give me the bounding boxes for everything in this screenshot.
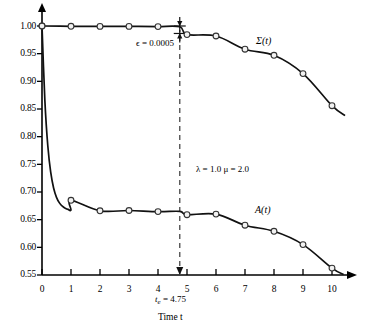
sigma-curve-label: Σ(t) bbox=[256, 35, 271, 46]
sigma-data-marker bbox=[300, 71, 306, 77]
x-tick-label: 4 bbox=[149, 284, 167, 294]
sigma-data-marker bbox=[97, 24, 103, 30]
a-data-marker bbox=[155, 209, 161, 215]
x-tick-label: 5 bbox=[178, 284, 196, 294]
y-tick-label: 0.90 bbox=[2, 76, 36, 86]
a-curve-label: A(t) bbox=[255, 204, 271, 215]
a-data-marker bbox=[126, 208, 132, 214]
figure-sigma-availability-plot: 1.00 0.95 0.90 0.85 0.80 0.75 0.70 0.65 … bbox=[0, 0, 372, 330]
sigma-data-marker bbox=[155, 24, 161, 30]
x-tick-label: 8 bbox=[265, 284, 283, 294]
sigma-data-marker bbox=[213, 33, 219, 39]
te-value-label: te = 4.75 bbox=[155, 294, 186, 306]
a-data-marker bbox=[329, 265, 335, 271]
x-tick-label: 3 bbox=[120, 284, 138, 294]
a-curve bbox=[42, 26, 344, 274]
y-tick-label: 0.60 bbox=[2, 242, 36, 252]
x-tick-label: 0 bbox=[33, 284, 51, 294]
y-tick-label: 0.85 bbox=[2, 103, 36, 113]
a-data-marker bbox=[271, 228, 277, 234]
a-data-marker bbox=[184, 212, 190, 218]
a-data-marker bbox=[97, 208, 103, 214]
sigma-data-marker bbox=[184, 32, 190, 38]
y-tick-label: 1.00 bbox=[2, 21, 36, 31]
x-tick-label: 2 bbox=[91, 284, 109, 294]
y-tick-label: 0.65 bbox=[2, 214, 36, 224]
y-tick-label: 0.70 bbox=[2, 186, 36, 196]
x-tick-label: 10 bbox=[323, 284, 341, 294]
chart-canvas bbox=[0, 0, 372, 330]
epsilon-annotation: ϵ = 0.0005 bbox=[136, 38, 174, 48]
sigma-curve bbox=[42, 26, 345, 116]
te-axis-pointer bbox=[176, 267, 183, 275]
y-tick-label: 0.95 bbox=[2, 48, 36, 58]
a-data-marker bbox=[300, 242, 306, 248]
a-data-marker bbox=[39, 23, 45, 29]
x-tick-label: 7 bbox=[236, 284, 254, 294]
a-data-marker bbox=[213, 211, 219, 217]
te-equals-value: = 4.75 bbox=[161, 294, 186, 304]
y-axis-arrow bbox=[38, 3, 46, 12]
sigma-data-marker bbox=[242, 46, 248, 52]
sigma-data-marker bbox=[126, 24, 132, 30]
a-data-marker bbox=[68, 197, 74, 203]
a-data-marker bbox=[242, 222, 248, 228]
sigma-data-marker bbox=[68, 23, 74, 29]
sigma-data-marker bbox=[271, 52, 277, 58]
parameters-annotation: λ = 1.0 μ = 2.0 bbox=[196, 164, 249, 174]
sigma-data-marker bbox=[329, 103, 335, 109]
x-axis-title: Time t bbox=[158, 312, 183, 322]
x-tick-label: 9 bbox=[294, 284, 312, 294]
y-tick-label: 0.80 bbox=[2, 131, 36, 141]
x-tick-label: 1 bbox=[62, 284, 80, 294]
y-tick-label: 0.55 bbox=[2, 269, 36, 279]
y-tick-label: 0.75 bbox=[2, 159, 36, 169]
x-axis-arrow bbox=[347, 271, 357, 279]
x-tick-label: 6 bbox=[207, 284, 225, 294]
